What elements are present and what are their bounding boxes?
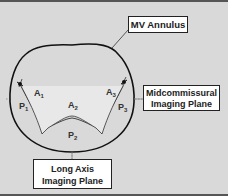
annulus-leader-line [112, 30, 128, 48]
mitral-valve-diagram: A1 A2 A3 P1 P2 P3 MV Annulus Midcommissu… [0, 0, 228, 196]
mv-annulus-text: MV Annulus [131, 19, 186, 30]
segment-p1-label: P1 [19, 101, 28, 112]
segment-a2-label: A2 [68, 100, 78, 111]
segment-a3-label: A3 [106, 87, 116, 98]
long-axis-plane-label: Long Axis Imaging Plane [33, 159, 112, 189]
midcommissural-line1: Midcommissural [144, 88, 219, 99]
segment-a1-label: A1 [34, 88, 44, 99]
midcommissural-plane-label: Midcommissural Imaging Plane [143, 85, 220, 111]
segment-p3-label: P3 [118, 102, 127, 113]
mv-annulus-label: MV Annulus [128, 16, 188, 33]
long-axis-line2: Imaging Plane [34, 175, 111, 187]
midcommissural-line2: Imaging Plane [144, 99, 219, 110]
long-axis-line1: Long Axis [34, 163, 111, 175]
segment-p2-label: P2 [68, 130, 77, 141]
